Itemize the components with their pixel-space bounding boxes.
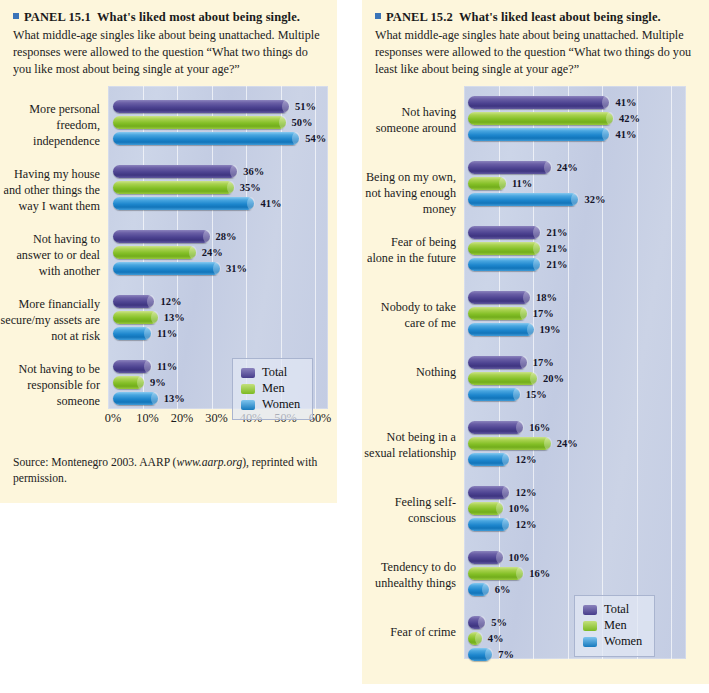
legend-label-total: Total <box>604 602 629 617</box>
category-label: Being on my own, not having enough money <box>362 170 456 218</box>
bar-men <box>468 502 503 515</box>
bar-cap-icon <box>144 327 152 340</box>
bar-cap-icon <box>475 632 483 645</box>
category-label: Feeling self-conscious <box>362 495 456 527</box>
legend-label-men: Men <box>262 381 285 396</box>
bar-value-label: 41% <box>615 96 636 109</box>
bar-women <box>113 392 158 405</box>
bar-cap-icon <box>282 100 290 113</box>
bar-total <box>468 356 527 369</box>
bar-women <box>468 388 520 401</box>
bar-value-label: 31% <box>226 262 247 275</box>
bar-cap-icon <box>227 181 235 194</box>
bar-cap-icon <box>496 551 504 564</box>
bar-women <box>468 648 492 661</box>
bar-value-label: 21% <box>546 242 567 255</box>
bar-value-label: 11% <box>512 177 532 190</box>
bar-women <box>113 197 254 210</box>
bar-total <box>113 100 289 113</box>
bar-women <box>468 128 609 141</box>
category-label: Not having someone around <box>362 105 456 137</box>
bar-total <box>468 161 551 174</box>
x-axis-tick: 30% <box>205 411 228 426</box>
category-label: Nobody to take care of me <box>362 300 456 332</box>
panel-15-1: PANEL 15.1 What's liked most about being… <box>0 0 337 503</box>
legend-item-men: Men <box>241 381 300 396</box>
panel-15-1-title-line: PANEL 15.1 What's liked most about being… <box>13 9 324 26</box>
legend-swatch-men-icon <box>583 621 597 631</box>
bar-cap-icon <box>496 502 504 515</box>
bar-men <box>113 376 144 389</box>
bar-total <box>113 295 154 308</box>
source-url: www.aarp.org <box>176 456 242 469</box>
x-axis-tick: 10% <box>136 411 159 426</box>
bar-cap-icon <box>203 230 211 243</box>
bar-value-label: 11% <box>157 327 177 340</box>
legend-label-total: Total <box>262 365 287 380</box>
bar-cap-icon <box>499 177 507 190</box>
bar-cap-icon <box>520 356 528 369</box>
bar-total <box>468 291 530 304</box>
bar-women <box>468 193 578 206</box>
legend-label-women: Women <box>262 397 300 412</box>
legend-swatch-total-icon <box>583 605 597 615</box>
category-label: Not having to be responsible for someone <box>0 362 100 410</box>
bar-value-label: 28% <box>216 230 237 243</box>
category-label: Fear of crime <box>362 625 456 641</box>
gridline <box>637 86 638 659</box>
bar-women <box>468 453 509 466</box>
panel-15-1-chart: 0%10%20%30%40%50%60% Total Men Women Mor… <box>0 86 337 431</box>
bar-cap-icon <box>530 372 538 385</box>
bar-total <box>113 230 210 243</box>
bar-cap-icon <box>482 583 490 596</box>
bar-cap-icon <box>151 392 159 405</box>
bar-value-label: 16% <box>529 421 550 434</box>
bar-value-label: 19% <box>540 323 561 336</box>
panel-15-1-label: PANEL 15.1 <box>24 10 91 24</box>
legend-swatch-women-icon <box>583 637 597 647</box>
bar-cap-icon <box>544 161 552 174</box>
panel-15-2-label: PANEL 15.2 <box>386 10 453 24</box>
bar-men <box>468 567 523 580</box>
bar-men <box>113 181 234 194</box>
bar-value-label: 6% <box>495 583 511 596</box>
bar-women <box>113 327 151 340</box>
bar-value-label: 12% <box>515 453 536 466</box>
bar-cap-icon <box>189 246 197 259</box>
bar-value-label: 12% <box>515 518 536 531</box>
category-label: Having my house and other things the way… <box>0 167 100 215</box>
bar-cap-icon <box>144 360 152 373</box>
bar-men <box>468 307 527 320</box>
bar-men <box>113 246 196 259</box>
bar-value-label: 20% <box>543 372 564 385</box>
bar-men <box>468 437 551 450</box>
bar-total <box>468 551 503 564</box>
bar-value-label: 15% <box>526 388 547 401</box>
panel-15-2-description: What middle-age singles hate about being… <box>375 27 696 79</box>
panel-15-2-header: PANEL 15.2 What's liked least about bein… <box>362 0 709 78</box>
category-label: Nothing <box>362 365 456 381</box>
bar-value-label: 21% <box>546 226 567 239</box>
bar-value-label: 41% <box>615 128 636 141</box>
chart-legend-left: Total Men Women <box>232 358 313 420</box>
bar-women <box>468 323 534 336</box>
category-label: Fear of being alone in the future <box>362 235 456 267</box>
square-marker-icon <box>375 13 381 19</box>
bar-men <box>113 116 286 129</box>
bar-value-label: 16% <box>529 567 550 580</box>
panel-15-2-title-line: PANEL 15.2 What's liked least about bein… <box>375 9 696 26</box>
bar-value-label: 12% <box>160 295 181 308</box>
bar-total <box>468 616 485 629</box>
panel-15-1-description: What middle-age singles like about being… <box>13 27 324 79</box>
bar-value-label: 10% <box>509 551 530 564</box>
bar-value-label: 21% <box>546 258 567 271</box>
legend-item-men: Men <box>583 618 642 633</box>
bar-total <box>113 360 151 373</box>
bar-value-label: 32% <box>584 193 605 206</box>
legend-label-women: Women <box>604 634 642 649</box>
bar-value-label: 4% <box>488 632 504 645</box>
bar-value-label: 24% <box>557 161 578 174</box>
chart-legend-right: Total Men Women <box>574 595 655 657</box>
bar-value-label: 41% <box>260 197 281 210</box>
bar-total <box>468 486 509 499</box>
